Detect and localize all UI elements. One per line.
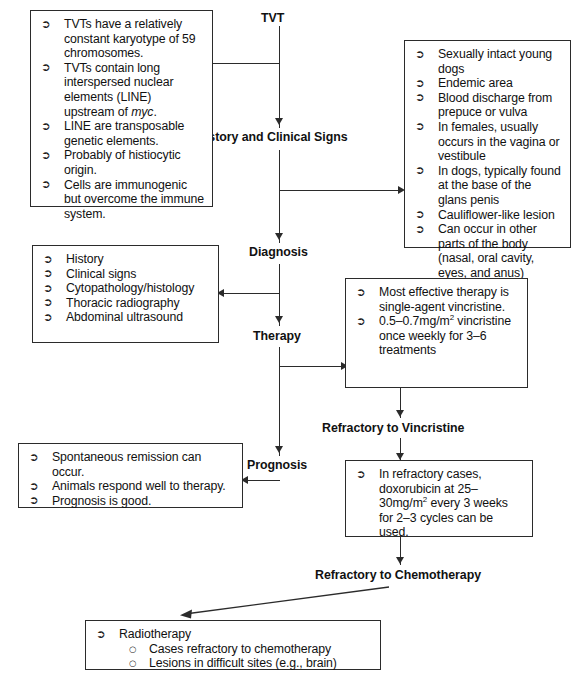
connector-spine-to-therapy-box bbox=[279, 366, 345, 367]
box-clinical-signs: ➲Sexually intact young dogs ➲Endemic are… bbox=[404, 40, 571, 248]
flowchart-canvas: TVT History and Clinical Signs Diagnosis… bbox=[0, 0, 585, 688]
list-item: ➲Radiotherapy bbox=[93, 627, 373, 642]
arrow-bullet-icon: ➲ bbox=[356, 285, 366, 300]
list-item: ➲Most effective therapy is single-agent … bbox=[353, 285, 520, 314]
arrow-bullet-icon: ➲ bbox=[29, 450, 39, 465]
clinical-signs-list: ➲Sexually intact young dogs ➲Endemic are… bbox=[412, 47, 563, 281]
spine-node-prognosis: Prognosis bbox=[247, 458, 307, 472]
arrow-bullet-icon: ➲ bbox=[43, 281, 53, 296]
arrowhead-refractory-chemotherapy bbox=[396, 557, 404, 564]
arrow-bullet-icon: ➲ bbox=[96, 627, 106, 642]
spine-node-refractory-chemotherapy: Refractory to Chemotherapy bbox=[315, 568, 481, 582]
list-item: ➲Cytopathology/histology bbox=[40, 281, 211, 296]
list-item: ➲Cells are immunogenic but overcome the … bbox=[38, 178, 205, 222]
arrowhead-history bbox=[275, 118, 283, 125]
arrow-bullet-icon: ➲ bbox=[41, 148, 51, 163]
arrow-bullet-icon: ➲ bbox=[41, 119, 51, 134]
arrow-bullet-icon: ➲ bbox=[43, 266, 53, 281]
list-item-sub: ○Lesions in difficult sites (e.g., brain… bbox=[93, 656, 373, 671]
arrowhead-refractory-vincristine bbox=[396, 410, 404, 417]
prognosis-list: ➲Spontaneous remission can occur. ➲Anima… bbox=[26, 450, 235, 508]
spine-node-refractory-vincristine: Refractory to Vincristine bbox=[322, 421, 464, 435]
list-item: ➲Can occur in other parts of the body (n… bbox=[412, 222, 563, 280]
box-prognosis: ➲Spontaneous remission can occur. ➲Anima… bbox=[18, 443, 243, 508]
arrow-bullet-icon: ➲ bbox=[43, 252, 53, 267]
connector-tvt-to-history bbox=[279, 26, 280, 128]
arrow-bullet-icon: ➲ bbox=[415, 90, 425, 105]
connector-spine-to-clinical-signs bbox=[279, 190, 402, 191]
therapy-list: ➲Most effective therapy is single-agent … bbox=[353, 285, 520, 358]
list-item-sub: ○Cases refractory to chemotherapy bbox=[93, 642, 373, 657]
list-item: ➲In refractory cases, doxorubicin at 25–… bbox=[353, 467, 525, 540]
arrowhead-prognosis bbox=[275, 446, 283, 453]
list-item: ➲Blood discharge from prepuce or vulva bbox=[412, 91, 563, 120]
circle-bullet-icon: ○ bbox=[129, 656, 136, 671]
arrowhead-therapy bbox=[275, 316, 283, 323]
arrow-bullet-icon: ➲ bbox=[43, 310, 53, 325]
list-item: ➲Probably of histiocytic origin. bbox=[38, 148, 205, 177]
connector-spine-to-diagnosis-box bbox=[219, 293, 280, 294]
list-item: ➲In females, usually occurs in the vagin… bbox=[412, 120, 563, 164]
box-tvt-biology: ➲TVTs have a relatively constant karyoty… bbox=[30, 10, 213, 207]
box-radiotherapy: ➲Radiotherapy ○Cases refractory to chemo… bbox=[85, 620, 381, 670]
arrow-bullet-icon: ➲ bbox=[41, 17, 51, 32]
arrow-bullet-icon: ➲ bbox=[415, 207, 425, 222]
list-item: ➲0.5–0.7mg/m2 vincristine once weekly fo… bbox=[353, 314, 520, 358]
box-diagnosis: ➲History ➲Clinical signs ➲Cytopathology/… bbox=[32, 245, 219, 343]
biology-item-2-text: TVTs contain long interspersed nuclear e… bbox=[64, 61, 173, 119]
arrow-bullet-icon: ➲ bbox=[415, 119, 425, 134]
connector-history-to-diagnosis bbox=[279, 150, 280, 243]
box-doxorubicin: ➲In refractory cases, doxorubicin at 25–… bbox=[345, 460, 533, 537]
list-item: ➲Animals respond well to therapy. bbox=[26, 479, 235, 494]
therapy-dose-a: 0.5–0.7mg/m bbox=[379, 314, 450, 328]
arrow-bullet-icon: ➲ bbox=[415, 76, 425, 91]
list-item: ➲Endemic area bbox=[412, 76, 563, 91]
list-item: ➲Thoracic radiography bbox=[40, 296, 211, 311]
arrowhead-diagnosis bbox=[275, 233, 283, 240]
arrow-bullet-icon: ➲ bbox=[29, 493, 39, 508]
list-item: ➲Cauliflower-like lesion bbox=[412, 208, 563, 223]
connector-prognosis-to-box bbox=[243, 480, 280, 481]
radiotherapy-list: ➲Radiotherapy ○Cases refractory to chemo… bbox=[93, 627, 373, 671]
arrow-bullet-icon: ➲ bbox=[415, 163, 425, 178]
arrow-bullet-icon: ➲ bbox=[41, 60, 51, 75]
box-therapy: ➲Most effective therapy is single-agent … bbox=[345, 278, 528, 388]
spine-node-tvt: TVT bbox=[261, 11, 284, 25]
circle-bullet-icon: ○ bbox=[129, 642, 136, 657]
list-item: ➲Prognosis is good. bbox=[26, 494, 235, 509]
list-item: ➲TVTs contain long interspersed nuclear … bbox=[38, 61, 205, 119]
list-item: ➲Sexually intact young dogs bbox=[412, 47, 563, 76]
list-item: ➲History bbox=[40, 252, 211, 267]
arrow-bullet-icon: ➲ bbox=[356, 314, 366, 329]
arrow-bullet-icon: ➲ bbox=[29, 479, 39, 494]
list-item: ➲In dogs, typically found at the base of… bbox=[412, 164, 563, 208]
connector-therapy-to-prognosis bbox=[279, 347, 280, 456]
list-item: ➲Clinical signs bbox=[40, 267, 211, 282]
list-item: ➲LINE are transposable genetic elements. bbox=[38, 119, 205, 148]
spine-node-therapy: Therapy bbox=[253, 329, 301, 343]
list-item: ➲TVTs have a relatively constant karyoty… bbox=[38, 17, 205, 61]
list-item: ➲Spontaneous remission can occur. bbox=[26, 450, 235, 479]
spine-node-diagnosis: Diagnosis bbox=[249, 245, 308, 259]
diagnosis-list: ➲History ➲Clinical signs ➲Cytopathology/… bbox=[40, 252, 211, 325]
arrow-bullet-icon: ➲ bbox=[41, 177, 51, 192]
list-item: ➲Abdominal ultrasound bbox=[40, 310, 211, 325]
biology-list: ➲TVTs have a relatively constant karyoty… bbox=[38, 17, 205, 221]
arrow-bullet-icon: ➲ bbox=[415, 222, 425, 237]
spine-node-history: History and Clinical Signs bbox=[196, 130, 348, 144]
arrowhead-doxorubicin-box bbox=[396, 453, 404, 460]
doxorubicin-list: ➲In refractory cases, doxorubicin at 25–… bbox=[353, 467, 525, 540]
arrow-bullet-icon: ➲ bbox=[415, 47, 425, 62]
arrow-bullet-icon: ➲ bbox=[356, 467, 366, 482]
arrow-bullet-icon: ➲ bbox=[43, 295, 53, 310]
